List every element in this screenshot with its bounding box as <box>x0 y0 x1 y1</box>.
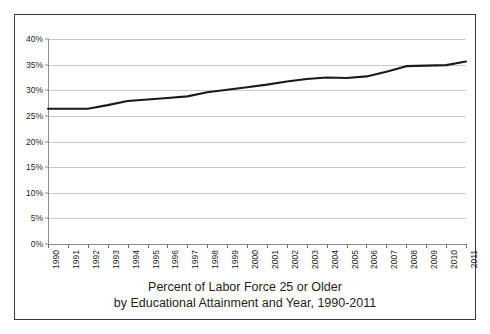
y-tick-label: 5% <box>31 214 43 223</box>
chart-title-line-1: Percent of Labor Force 25 or Older <box>15 279 475 295</box>
x-tick-label-2006: 2006 <box>370 250 379 269</box>
data-series-svg <box>48 39 466 244</box>
x-tick-label-2009: 2009 <box>430 250 439 269</box>
y-tick-label: 15% <box>26 163 43 172</box>
x-tick-mark-2008 <box>406 244 407 248</box>
plot-area: 0%5%10%15%20%25%30%35%40% 19901991199219… <box>48 39 466 244</box>
x-tick-label-2005: 2005 <box>351 250 360 269</box>
y-tick-label: 20% <box>26 137 43 146</box>
chart-title-line-2: by Educational Attainment and Year, 1990… <box>15 295 475 311</box>
x-tick-mark-2005 <box>347 244 348 248</box>
y-tick-label: 0% <box>31 240 43 249</box>
x-tick-label-1997: 1997 <box>191 250 200 269</box>
x-tick-mark-2004 <box>327 244 328 248</box>
x-tick-mark-1992 <box>88 244 89 248</box>
chart-figure-frame: 0%5%10%15%20%25%30%35%40% 19901991199219… <box>14 14 476 320</box>
x-tick-label-2008: 2008 <box>410 250 419 269</box>
x-tick-label-1994: 1994 <box>132 250 141 269</box>
x-tick-label-1999: 1999 <box>231 250 240 269</box>
x-tick-label-2004: 2004 <box>331 250 340 269</box>
x-tick-label-2007: 2007 <box>390 250 399 269</box>
gridline-0% <box>48 244 466 245</box>
x-tick-mark-2000 <box>247 244 248 248</box>
x-tick-label-2001: 2001 <box>271 250 280 269</box>
x-tick-label-2000: 2000 <box>251 250 260 269</box>
y-tick-label: 35% <box>26 60 43 69</box>
x-tick-mark-1990 <box>48 244 49 248</box>
x-tick-mark-1997 <box>187 244 188 248</box>
y-tick-label: 25% <box>26 112 43 121</box>
x-tick-mark-1993 <box>108 244 109 248</box>
x-tick-mark-2003 <box>307 244 308 248</box>
series-line-educational-attainment <box>48 62 466 109</box>
y-tick-label: 10% <box>26 189 43 198</box>
x-tick-mark-1994 <box>128 244 129 248</box>
y-tick-label: 30% <box>26 86 43 95</box>
x-tick-label-1991: 1991 <box>72 250 81 269</box>
x-tick-mark-2007 <box>386 244 387 248</box>
x-tick-label-1993: 1993 <box>112 250 121 269</box>
x-tick-mark-2009 <box>426 244 427 248</box>
x-tick-label-2011: 2011 <box>470 250 479 268</box>
x-tick-mark-2011 <box>466 244 467 248</box>
x-tick-label-2002: 2002 <box>291 250 300 269</box>
x-tick-mark-2010 <box>446 244 447 248</box>
x-tick-label-1995: 1995 <box>152 250 161 269</box>
x-tick-mark-1996 <box>167 244 168 248</box>
x-tick-label-2010: 2010 <box>450 250 459 269</box>
x-tick-label-2003: 2003 <box>311 250 320 269</box>
x-tick-mark-1995 <box>148 244 149 248</box>
x-tick-label-1992: 1992 <box>92 250 101 269</box>
x-tick-label-1996: 1996 <box>171 250 180 269</box>
x-tick-mark-2002 <box>287 244 288 248</box>
x-tick-mark-1999 <box>227 244 228 248</box>
x-tick-label-1990: 1990 <box>52 250 61 269</box>
chart-title: Percent of Labor Force 25 or Older by Ed… <box>15 279 475 311</box>
x-tick-mark-2001 <box>267 244 268 248</box>
y-tick-label: 40% <box>26 35 43 44</box>
x-tick-mark-2006 <box>366 244 367 248</box>
x-tick-mark-1991 <box>68 244 69 248</box>
x-tick-mark-1998 <box>207 244 208 248</box>
x-tick-label-1998: 1998 <box>211 250 220 269</box>
